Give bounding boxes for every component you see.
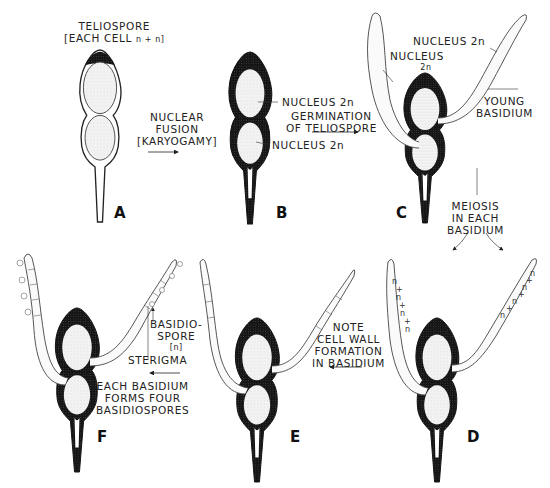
panel-label-c: C xyxy=(396,204,407,222)
cell-wall-note-label: NOTE CELL WALL FORMATION IN BASIDIUM xyxy=(312,321,385,369)
nucleus-bottom-b-label: NUCLEUS 2n xyxy=(272,139,344,151)
nucleus-top-b-label: NUCLEUS 2n xyxy=(282,96,354,108)
basidiospore-label: BASIDIO- SPORE [n] xyxy=(150,318,202,354)
panel-label-f: F xyxy=(97,428,107,446)
sterigma-label: STERIGMA xyxy=(128,354,187,366)
teliospore-d xyxy=(416,318,459,482)
d-right-nuclei: n + n + n + n xyxy=(500,270,535,319)
teliospore-a xyxy=(80,50,121,222)
teliospore-b xyxy=(229,52,272,224)
teliospore-germination-diagram: A B C D E F TELIOSPORE [EACH CELL n + n]… xyxy=(0,0,550,488)
panel-label-d: D xyxy=(467,428,479,446)
nuclear-fusion-label: NUCLEAR FUSION [KARYOGAMY] xyxy=(137,111,217,147)
illustration-layer xyxy=(0,0,550,488)
panel-label-e: E xyxy=(290,428,300,446)
young-basidium-label: YOUNG BASIDIUM xyxy=(476,95,533,119)
meiosis-label: MEIOSIS IN EACH BASIDIUM xyxy=(447,200,504,236)
nucleus-left-c-label: NUCLEUS 2n xyxy=(390,50,444,74)
germination-label: GERMINATION OF TELIOSPORE xyxy=(286,110,377,134)
panel-label-a: A xyxy=(114,204,126,222)
d-left-nuclei: n + n + n + n xyxy=(392,278,411,334)
panel-label-b: B xyxy=(276,204,287,222)
nucleus-right-c-label: NUCLEUS 2n xyxy=(413,35,485,47)
teliospore-e xyxy=(235,318,279,482)
each-basidium-label: EACH BASIDIUM FORMS FOUR BASIDIOSPORES xyxy=(96,380,189,416)
teliospore-label: TELIOSPORE [EACH CELL n + n] xyxy=(64,20,165,46)
teliospore-f xyxy=(55,308,99,472)
teliospore-c xyxy=(404,73,447,223)
